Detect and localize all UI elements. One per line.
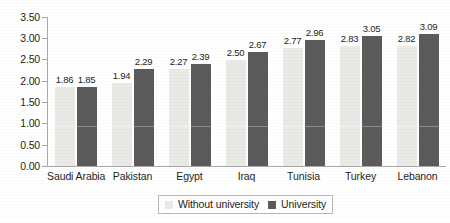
y-tick-group-1-50: 1.50 [0, 97, 40, 107]
y-tick-group-0-00: 0.00 [0, 161, 40, 171]
chart-legend: Without university University [158, 195, 333, 214]
bar-value-label: 2.77 [284, 36, 302, 46]
bar-value-label: 1.94 [113, 71, 131, 81]
bar-group: 2.772.96 [283, 17, 325, 166]
bar-group: 1.942.29 [112, 17, 154, 166]
bar-value-label: 2.83 [341, 34, 359, 44]
bar[interactable]: 2.96 [305, 40, 325, 166]
bar-value-label: 2.96 [306, 28, 324, 38]
x-axis-category-label: Lebanon [389, 170, 446, 182]
x-axis-category-label: Egypt [161, 170, 218, 182]
x-axis-category-label: Saudi Arabia [47, 170, 104, 182]
bar-value-label: 3.05 [363, 24, 381, 34]
y-axis-label: 2.50 [2, 54, 40, 64]
y-axis-label: 0.50 [2, 140, 40, 150]
y-axis-label: 3.50 [2, 12, 40, 22]
legend-label: Without university [178, 199, 259, 210]
bar[interactable]: 1.85 [77, 87, 97, 166]
legend-swatch-icon [165, 201, 173, 209]
y-tick-group-1-00: 1.00 [0, 118, 40, 128]
bar[interactable]: 2.77 [283, 48, 303, 166]
y-tick-group-2-50: 2.50 [0, 54, 40, 64]
x-axis-category-label: Iraq [218, 170, 275, 182]
bar[interactable]: 2.83 [340, 46, 360, 166]
bar[interactable]: 2.50 [226, 60, 246, 166]
bar[interactable]: 3.05 [362, 36, 382, 166]
bar-chart-figure: 3.50 3.00 2.50 2.00 1.50 1.00 0.50 0.00 [0, 0, 450, 223]
bar-group: 2.272.39 [169, 17, 211, 166]
x-axis-category-label: Turkey [332, 170, 389, 182]
legend-swatch-icon [268, 201, 276, 209]
y-axis-label: 3.00 [2, 33, 40, 43]
x-axis-line [47, 166, 446, 167]
y-tick-group-0-50: 0.50 [0, 140, 40, 150]
y-tick-group-3-00: 3.00 [0, 33, 40, 43]
bar-value-label: 1.86 [56, 75, 74, 85]
y-axis-label: 2.00 [2, 76, 40, 86]
x-axis-category-label: Tunisia [275, 170, 332, 182]
bar[interactable]: 1.86 [55, 87, 75, 166]
bar[interactable]: 2.39 [191, 64, 211, 166]
bar-value-label: 2.27 [170, 57, 188, 67]
bar-value-label: 1.85 [78, 75, 96, 85]
bar[interactable]: 2.82 [397, 46, 417, 166]
bar-value-label: 2.29 [135, 57, 153, 67]
plot-area: 1.861.851.942.292.272.392.502.672.772.96… [47, 17, 446, 166]
bar[interactable]: 2.67 [248, 52, 268, 166]
bar-group: 2.823.09 [397, 17, 439, 166]
x-axis-category-label: Pakistan [104, 170, 161, 182]
legend-item-without-university[interactable]: Without university [165, 199, 259, 210]
bar-value-label: 3.09 [420, 22, 438, 32]
bar-value-label: 2.82 [398, 34, 416, 44]
bar[interactable]: 2.29 [134, 69, 154, 166]
bar-group: 2.502.67 [226, 17, 268, 166]
bar-group: 1.861.85 [55, 17, 97, 166]
bar[interactable]: 2.27 [169, 69, 189, 166]
legend-label: University [281, 199, 326, 210]
y-tick-group-2-00: 2.00 [0, 76, 40, 86]
bar[interactable]: 1.94 [112, 83, 132, 166]
y-axis-label: 1.00 [2, 118, 40, 128]
bar-group: 2.833.05 [340, 17, 382, 166]
bar-value-label: 2.67 [249, 40, 267, 50]
legend-item-university[interactable]: University [268, 199, 326, 210]
bar-value-label: 2.39 [192, 52, 210, 62]
y-axis-label: 1.50 [2, 97, 40, 107]
bar[interactable]: 3.09 [419, 34, 439, 166]
y-axis-label: 0.00 [2, 161, 40, 171]
bar-value-label: 2.50 [227, 48, 245, 58]
y-tick-group-3-50: 3.50 [0, 12, 40, 22]
